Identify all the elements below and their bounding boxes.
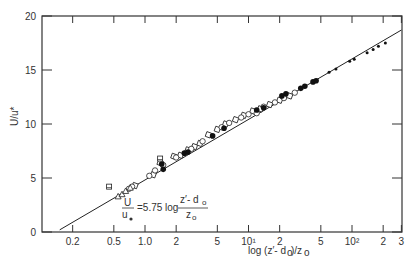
x-tick-label: 5 bbox=[215, 236, 221, 247]
x-tick-label: 2 bbox=[380, 236, 386, 247]
svg-text:o: o bbox=[192, 213, 197, 222]
x-tick-label: 10² bbox=[345, 236, 360, 247]
marker-circle-open bbox=[152, 168, 157, 173]
chart: 0.20.51.02510¹2510²2305101520 U u =5.75 … bbox=[0, 0, 412, 264]
marker-circle-open bbox=[173, 155, 178, 160]
marker-dot bbox=[328, 71, 331, 74]
svg-text:=5.75 log: =5.75 log bbox=[137, 202, 178, 213]
marker-circle-open bbox=[246, 112, 251, 117]
marker-circle-filled bbox=[210, 133, 216, 139]
marker-circle-filled bbox=[185, 149, 191, 155]
marker-circle-filled bbox=[221, 126, 227, 132]
svg-text:U: U bbox=[124, 197, 131, 208]
svg-text:z′- d: z′- d bbox=[180, 194, 199, 205]
x-tick-label: 3 bbox=[399, 236, 405, 247]
marker-circle-filled bbox=[302, 83, 308, 89]
x-tick-label: 0.2 bbox=[66, 236, 80, 247]
y-tick-label: 0 bbox=[30, 227, 36, 238]
svg-text:o: o bbox=[202, 198, 207, 207]
svg-text:z: z bbox=[186, 209, 191, 220]
marker-dot bbox=[366, 51, 369, 54]
marker-circle-open bbox=[226, 120, 231, 125]
marker-circle-filled bbox=[313, 78, 319, 84]
marker-circle-open bbox=[200, 139, 205, 144]
y-tick-label: 10 bbox=[25, 119, 37, 130]
svg-text:U/u*: U/u* bbox=[9, 106, 20, 126]
marker-circle-filled bbox=[254, 107, 260, 113]
marker-dot bbox=[353, 58, 356, 61]
marker-circle-open bbox=[238, 115, 243, 120]
marker-circle-filled bbox=[283, 91, 289, 97]
svg-text:o: o bbox=[304, 247, 310, 258]
x-axis-title: log (z′- d o )/z o bbox=[248, 245, 310, 258]
plot-frame bbox=[42, 16, 402, 232]
marker-dot bbox=[384, 42, 387, 45]
marker-circle-filled bbox=[159, 161, 165, 167]
marker-square-flag bbox=[158, 156, 163, 161]
x-tick-label: 2 bbox=[173, 236, 179, 247]
svg-text:u: u bbox=[122, 209, 128, 220]
marker-circle-filled bbox=[160, 167, 166, 173]
y-axis-title: U/u* bbox=[9, 106, 20, 126]
svg-text:)/z: )/z bbox=[291, 245, 302, 256]
x-tick-label: 0.5 bbox=[107, 236, 121, 247]
marker-circle-filled bbox=[261, 105, 267, 111]
marker-circle-open bbox=[147, 173, 152, 178]
x-tick-label: 1.0 bbox=[138, 236, 152, 247]
marker-dot bbox=[334, 67, 337, 70]
marker-dot bbox=[377, 45, 380, 48]
y-tick-label: 5 bbox=[30, 173, 36, 184]
marker-square-flag bbox=[107, 184, 112, 189]
marker-dot bbox=[372, 48, 375, 51]
marker-circle-open bbox=[292, 90, 297, 95]
x-tick-label: 5 bbox=[318, 236, 324, 247]
y-tick-label: 20 bbox=[25, 11, 37, 22]
y-tick-label: 15 bbox=[25, 65, 37, 76]
equation-annotation: U u =5.75 log z′- d o z o bbox=[122, 194, 208, 222]
marker-circle-open bbox=[272, 100, 277, 105]
svg-text:log (z′- d: log (z′- d bbox=[248, 245, 286, 256]
marker-square bbox=[232, 116, 238, 122]
marker-dot bbox=[348, 60, 351, 63]
